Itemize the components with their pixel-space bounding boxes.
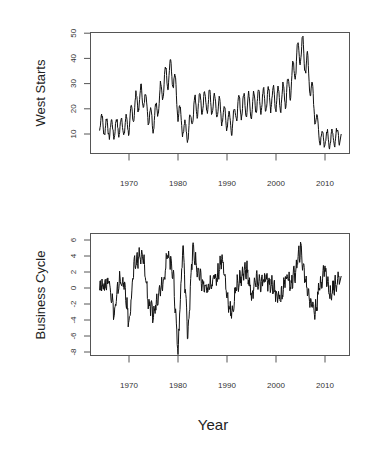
bottom-y-axis: -8-6-4-20246 bbox=[69, 237, 91, 355]
y-tick-label: 4 bbox=[69, 253, 78, 258]
top-y-axis: 1020304050 bbox=[69, 28, 91, 138]
x-tick-label: 1990 bbox=[218, 179, 236, 188]
y-tick-label: 6 bbox=[69, 237, 78, 242]
y-tick-label: -6 bbox=[69, 332, 78, 340]
chart-canvas: 1020304050 19701980199020002010 West Sta… bbox=[0, 0, 369, 455]
y-tick-label: 0 bbox=[69, 285, 78, 290]
x-axis-title: Year bbox=[198, 416, 228, 433]
top-panel: 1020304050 19701980199020002010 West Sta… bbox=[33, 28, 350, 187]
y-tick-label: 10 bbox=[69, 129, 78, 138]
y-tick-label: -8 bbox=[69, 348, 78, 356]
x-tick-label: 1970 bbox=[120, 179, 138, 188]
y-tick-label: 50 bbox=[69, 28, 78, 37]
business-cycle-line bbox=[100, 242, 342, 355]
x-tick-label: 2010 bbox=[316, 381, 334, 390]
x-tick-label: 2010 bbox=[316, 179, 334, 188]
top-y-axis-title: West Starts bbox=[33, 59, 48, 126]
west-starts-line bbox=[100, 36, 342, 149]
bottom-x-axis: 19701980199020002010 bbox=[120, 356, 334, 390]
bottom-plot-frame bbox=[91, 234, 350, 356]
x-tick-label: 1980 bbox=[169, 179, 187, 188]
bottom-y-axis-title: Business Cycle bbox=[33, 251, 48, 340]
x-tick-label: 2000 bbox=[267, 179, 285, 188]
bottom-panel: -8-6-4-20246 19701980199020002010 Busine… bbox=[33, 234, 350, 390]
top-x-axis: 19701980199020002010 bbox=[120, 154, 334, 188]
y-tick-label: 40 bbox=[69, 53, 78, 62]
x-tick-label: 1980 bbox=[169, 381, 187, 390]
x-tick-label: 1990 bbox=[218, 381, 236, 390]
y-tick-label: 2 bbox=[69, 269, 78, 274]
y-tick-label: -2 bbox=[69, 300, 78, 308]
y-tick-label: -4 bbox=[69, 316, 78, 324]
y-tick-label: 30 bbox=[69, 79, 78, 88]
x-tick-label: 2000 bbox=[267, 381, 285, 390]
x-tick-label: 1970 bbox=[120, 381, 138, 390]
y-tick-label: 20 bbox=[69, 104, 78, 113]
